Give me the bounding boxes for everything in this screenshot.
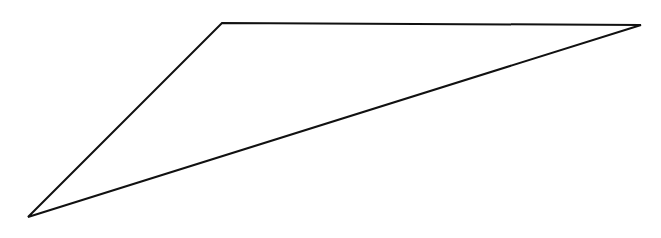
triangle-figure <box>0 0 661 238</box>
triangle-shape <box>28 23 641 217</box>
diagram-canvas <box>0 0 661 238</box>
